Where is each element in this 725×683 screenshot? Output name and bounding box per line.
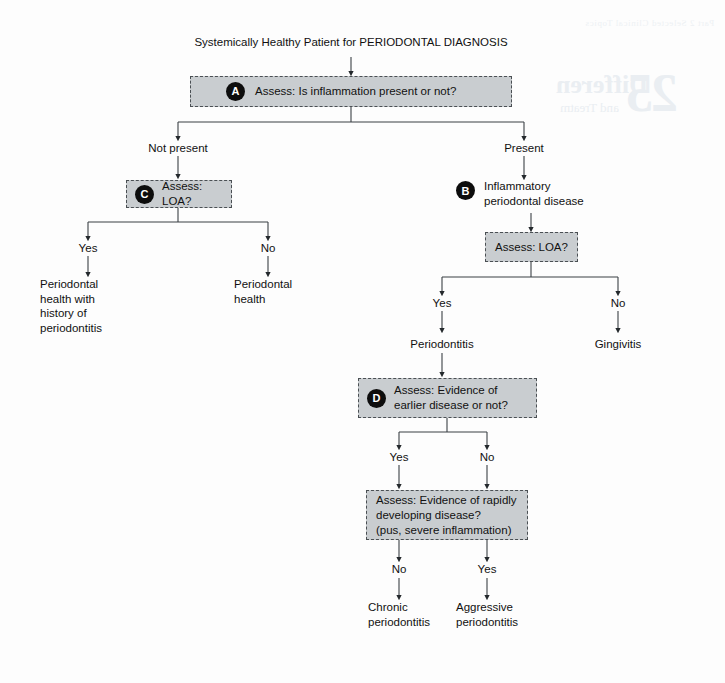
branch-label-rapid-yes: Yes bbox=[478, 562, 497, 577]
node-b: B Inflammatory periodontal disease bbox=[456, 179, 584, 208]
branch-label-loa-no: No bbox=[611, 296, 626, 311]
branch-label-loa-yes: Yes bbox=[433, 296, 452, 311]
branch-label-c-yes: Yes bbox=[79, 241, 98, 256]
branch-label-rapid-no: No bbox=[392, 562, 407, 577]
node-b-label: Inflammatory periodontal disease bbox=[484, 179, 584, 208]
branch-label-c-no: No bbox=[261, 241, 276, 256]
decision-rapid-label: Assess: Evidence of rapidly developing d… bbox=[376, 493, 517, 538]
branch-label-d-no: No bbox=[480, 450, 495, 465]
decision-c-label: Assess: LOA? bbox=[162, 179, 231, 209]
branch-label-present: Present bbox=[504, 141, 544, 156]
decision-box-a[interactable]: A Assess: Is inflammation present or not… bbox=[190, 76, 512, 107]
outcome-aggressive-periodontitis: Aggressive periodontitis bbox=[456, 600, 561, 629]
outcome-periodontal-health-with-history: Periodontal health with history of perio… bbox=[40, 277, 150, 335]
badge-d: D bbox=[367, 389, 386, 408]
decision-box-rapid-disease[interactable]: Assess: Evidence of rapidly developing d… bbox=[366, 490, 528, 540]
diagram-title: Systemically Healthy Patient for PERIODO… bbox=[194, 36, 507, 48]
outcome-periodontal-health: Periodontal health bbox=[234, 277, 344, 306]
decision-box-loa-right[interactable]: Assess: LOA? bbox=[485, 232, 578, 262]
decision-loa-right-label: Assess: LOA? bbox=[495, 240, 568, 255]
decision-box-d[interactable]: D Assess: Evidence of earlier disease or… bbox=[358, 378, 537, 418]
badge-b: B bbox=[456, 181, 475, 200]
badge-c: C bbox=[135, 185, 154, 204]
flowchart-canvas: Part 2 Selected Clinical Topics 25 Diffe… bbox=[0, 0, 725, 683]
branch-label-d-yes: Yes bbox=[390, 450, 409, 465]
outcome-gingivitis: Gingivitis bbox=[595, 337, 642, 352]
outcome-periodontitis: Periodontitis bbox=[410, 337, 473, 352]
decision-box-c[interactable]: C Assess: LOA? bbox=[126, 180, 232, 208]
branch-label-not-present: Not present bbox=[148, 141, 207, 156]
badge-a: A bbox=[226, 82, 245, 101]
decision-d-label: Assess: Evidence of earlier disease or n… bbox=[394, 383, 508, 413]
decision-a-label: Assess: Is inflammation present or not? bbox=[255, 84, 456, 99]
outcome-chronic-periodontitis: Chronic periodontitis bbox=[368, 600, 463, 629]
